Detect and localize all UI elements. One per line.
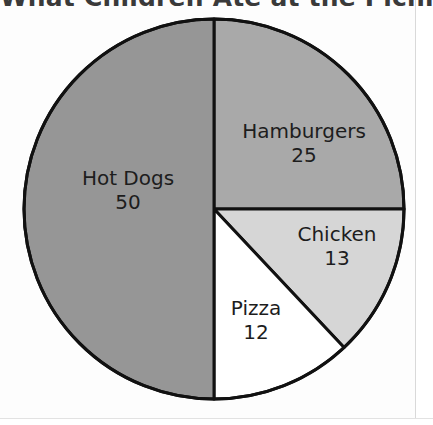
pie-slice-hamburgers	[214, 19, 404, 209]
pie-slice-hot-dogs	[24, 19, 214, 399]
pie-chart-svg	[0, 0, 433, 425]
pie-chart-screenshot: What Children Ate at the Picnic Hamburge…	[0, 0, 433, 425]
pie-slice-group	[24, 19, 404, 399]
pie-chart: Hamburgers 25 Chicken 13 Pizza 12 Hot Do…	[0, 0, 433, 425]
